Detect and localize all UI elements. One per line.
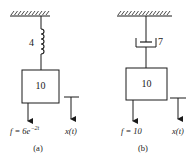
mass-label-a: 10 bbox=[36, 80, 46, 91]
displacement-label-b: x(t) bbox=[171, 126, 184, 136]
hatching-icon bbox=[118, 11, 170, 15]
mass-spring-damper-figure: 4 10 f = 6e−2t x(t) (a) 7 bbox=[0, 0, 194, 162]
dashpot-icon bbox=[136, 16, 156, 68]
force-label-a: f = 6e−2t bbox=[10, 125, 39, 136]
ceiling-a bbox=[10, 11, 50, 16]
ceiling-b bbox=[117, 11, 172, 16]
caption-a: (a) bbox=[33, 143, 43, 153]
spring-constant-label: 4 bbox=[29, 37, 34, 48]
diagram-a: 4 10 f = 6e−2t x(t) (a) bbox=[10, 11, 79, 153]
mass-label-b: 10 bbox=[142, 78, 152, 89]
caption-b: (b) bbox=[138, 143, 148, 153]
diagram-b: 7 10 f = 10 x(t) (b) bbox=[117, 11, 186, 153]
displacement-label-a: x(t) bbox=[64, 126, 77, 136]
hatching-icon bbox=[11, 11, 49, 15]
force-label-b: f = 10 bbox=[121, 126, 143, 136]
spring-icon bbox=[41, 16, 44, 70]
damping-constant-label: 7 bbox=[158, 36, 163, 47]
